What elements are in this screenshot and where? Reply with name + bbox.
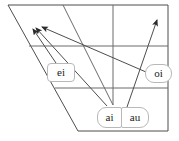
label-ai[interactable]: ai <box>97 107 122 128</box>
quadrilateral-grid <box>29 5 168 105</box>
label-au[interactable]: au <box>121 107 149 128</box>
vowel-diagram-figure: ei oi ai au <box>0 0 179 141</box>
label-ai-text: ai <box>106 112 114 123</box>
label-au-text: au <box>130 112 140 123</box>
label-oi[interactable]: oi <box>145 64 172 83</box>
label-ei[interactable]: ei <box>47 63 75 82</box>
label-oi-text: oi <box>154 68 163 79</box>
label-ei-text: ei <box>57 67 65 78</box>
